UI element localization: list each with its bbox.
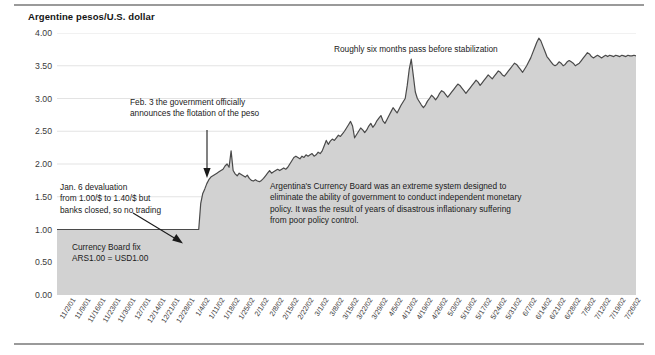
annotation-arrows xyxy=(0,0,655,355)
chart-figure: Argentine pesos/U.S. dollar 4.003.503.00… xyxy=(0,0,655,355)
